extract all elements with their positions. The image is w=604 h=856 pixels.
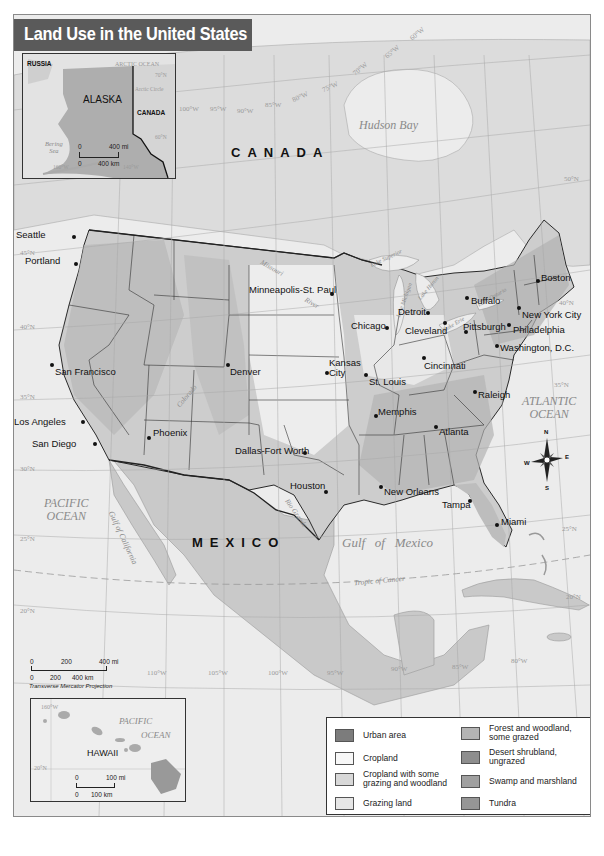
compass-n: N (544, 429, 548, 435)
city-marker-icon (434, 425, 438, 429)
alaska-scale-zero-bottom: 0 (78, 160, 82, 167)
city-label: Minneapolis-St. Paul (249, 285, 336, 295)
city-label: Cincinnati (424, 361, 466, 371)
city-label: St. Louis (369, 377, 406, 387)
legend-item-swamp: Swamp and marshland (461, 775, 577, 788)
lat-label: 20°N (566, 593, 581, 601)
pacific-ocean-line2: OCEAN (44, 510, 88, 523)
atlantic-ocean-line1: ATLANTIC (522, 395, 576, 408)
city-marker-icon (72, 235, 76, 239)
legend-item-desert: Desert shrubland, ungrazed (461, 748, 571, 766)
city-label: New Orleans (384, 487, 439, 497)
legend-label: Swamp and marshland (489, 777, 577, 786)
city-label: Philadelphia (513, 325, 565, 335)
compass-e: E (565, 454, 569, 460)
legend-label: Cropland with some grazing and woodland (363, 770, 453, 788)
inset-canada-label: CANADA (137, 110, 165, 117)
lon-160-label: 160°W (53, 164, 69, 170)
hawaii-label: HAWAII (87, 749, 118, 758)
canada-label: CANADA (231, 145, 329, 160)
map-title: Land Use in the United States (24, 23, 247, 45)
legend-label: Urban area (363, 731, 406, 740)
atlantic-ocean-line2: OCEAN (522, 408, 576, 421)
city-marker-icon (74, 262, 78, 266)
lon-label: 90°W (237, 107, 253, 115)
hawaii-scale-bar (76, 783, 115, 788)
legend: Urban area Cropland Cropland with some g… (326, 717, 591, 815)
city-label: Tampa (442, 500, 471, 510)
legend-item-tundra: Tundra (461, 797, 516, 810)
city-label: Washington, D.C. (500, 343, 574, 353)
city-marker-icon (93, 442, 97, 446)
alaska-scale-zero-top: 0 (78, 143, 82, 150)
pacific-ocean-label: PACIFIC OCEAN (44, 497, 88, 522)
legend-label: Desert shrubland, ungrazed (489, 748, 571, 766)
lon-label: 100°W (179, 105, 199, 113)
city-label: Miami (501, 517, 526, 527)
hawaii-lat-label: 20°N (34, 765, 47, 771)
arctic-ocean-label: ARCTIC OCEAN (115, 61, 159, 67)
hawaii-scale-top: 100 mi (106, 774, 126, 781)
city-label: Raleigh (478, 390, 510, 400)
city-marker-icon (426, 311, 430, 315)
city-label: San Francisco (55, 367, 116, 377)
hawaii-scale-bottom: 100 km (91, 791, 112, 798)
alaska-label: ALASKA (83, 95, 122, 105)
lon-140-label: 140°W (123, 164, 139, 170)
lon-label: 95°W (210, 105, 226, 113)
city-label: Seattle (16, 230, 46, 240)
legend-item-cropland-grazing: Cropland with some grazing and woodland (335, 770, 453, 788)
city-label: Atlanta (439, 427, 469, 437)
compass-w: W (524, 460, 530, 466)
city-label: Buffalo (471, 296, 500, 306)
gulf-of-mexico-label: Gulf of Mexico (342, 536, 433, 550)
legend-swatch (335, 773, 354, 786)
legend-swatch (461, 775, 480, 788)
city-label: Portland (25, 256, 60, 266)
city-marker-icon (147, 436, 151, 440)
city-marker-icon (517, 306, 521, 310)
city-label: Denver (230, 367, 261, 377)
city-label: Phoenix (153, 428, 187, 438)
city-label: Los Angeles (14, 417, 66, 427)
legend-item-grazing: Grazing land (335, 797, 412, 810)
city-label: Cleveland (405, 326, 447, 336)
atlantic-ocean-label: ATLANTIC OCEAN (522, 395, 576, 420)
scale-tick-0-km: 0 (30, 674, 34, 681)
scale-tick-200-mi: 200 (61, 658, 72, 665)
alaska-inset: RUSSIA ARCTIC OCEAN 70°N Arctic Circle A… (22, 53, 176, 179)
city-marker-icon (81, 420, 85, 424)
legend-label: Tundra (489, 799, 516, 808)
compass-s: S (545, 485, 549, 491)
city-marker-icon (473, 390, 477, 394)
lat-label: 30°N (20, 465, 35, 473)
lat-label: 40°N (20, 323, 35, 331)
legend-swatch (335, 797, 354, 810)
city-marker-icon (465, 296, 469, 300)
legend-item-cropland: Cropland (335, 752, 398, 765)
hawaii-scale-zero-top: 0 (75, 774, 79, 781)
pacific-ocean-line1: PACIFIC (44, 497, 88, 510)
projection-label: Transverse Mercator Projection (29, 683, 112, 689)
legend-swatch (461, 751, 480, 764)
legend-swatch (335, 729, 354, 742)
city-label: Chicago (351, 321, 386, 331)
city-label: Kansas City (329, 358, 361, 377)
city-marker-icon (507, 323, 511, 327)
city-label: San Diego (32, 439, 76, 449)
legend-item-forest: Forest and woodland, some grazed (461, 724, 586, 742)
city-label: Boston (541, 273, 571, 283)
alaska-scale-top: 400 mi (109, 143, 129, 150)
lat-label: 20°N (20, 607, 35, 615)
lon-label: 85°W (452, 663, 468, 671)
alaska-scale-bottom: 400 km (98, 160, 119, 167)
lat-60-label: 60°N (155, 134, 167, 140)
legend-item-urban: Urban area (335, 729, 406, 742)
hawaii-scale-zero-bottom: 0 (75, 791, 79, 798)
lat-label: 45°N (20, 249, 35, 257)
hawaii-pacific-label: PACIFIC (119, 717, 152, 726)
lat-label: 50°N (564, 175, 579, 183)
legend-swatch (461, 797, 480, 810)
scale-tick-400-mi: 400 mi (99, 658, 119, 665)
legend-label: Grazing land (363, 799, 412, 808)
